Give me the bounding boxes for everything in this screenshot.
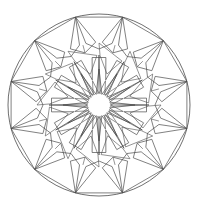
mandala-illustration	[0, 0, 201, 212]
canvas-background	[0, 0, 201, 212]
